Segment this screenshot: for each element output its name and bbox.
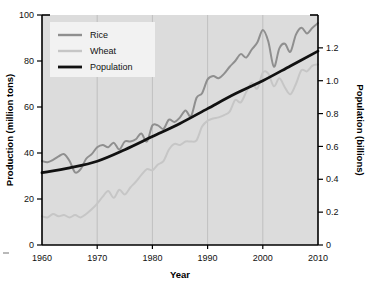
legend-label-rice: Rice	[90, 30, 108, 40]
y2-axis-title: Population (billions)	[355, 84, 365, 175]
y-tick-label: 20	[24, 194, 34, 204]
x-tick-label: 1960	[32, 253, 52, 263]
y2-tick-label: 0.4	[326, 174, 339, 184]
chart-figure: 020406080100 00.20.40.60.81.01.2 1960197…	[0, 0, 365, 285]
x-tick-label: 1990	[198, 253, 218, 263]
left-axis-ticks: 020406080100	[19, 10, 42, 250]
y2-tick-label: 1.2	[326, 43, 339, 53]
legend-label-wheat: Wheat	[90, 46, 117, 56]
y2-tick-label: 0.2	[326, 207, 339, 217]
x-tick-label: 2010	[308, 253, 328, 263]
x-tick-label: 2000	[253, 253, 273, 263]
x-tick-label: 1970	[87, 253, 107, 263]
y2-tick-label: 0	[326, 240, 331, 250]
y2-tick-label: 0.6	[326, 142, 339, 152]
y-tick-label: 40	[24, 148, 34, 158]
legend: RiceWheatPopulation	[50, 22, 155, 77]
legend-label-population: Population	[90, 62, 133, 72]
y2-tick-label: 0.8	[326, 109, 339, 119]
x-tick-label: 1980	[142, 253, 162, 263]
y-tick-label: 100	[19, 10, 34, 20]
right-axis-ticks: 00.20.40.60.81.01.2	[318, 43, 339, 250]
x-axis-ticks: 196019701980199020002010	[32, 245, 328, 263]
x-axis-title: Year	[170, 269, 190, 280]
y-tick-label: 0	[29, 240, 34, 250]
y-axis-title: Production (million tons)	[4, 74, 15, 186]
y-tick-label: 60	[24, 102, 34, 112]
y2-tick-label: 1.0	[326, 76, 339, 86]
y-tick-label: 80	[24, 56, 34, 66]
